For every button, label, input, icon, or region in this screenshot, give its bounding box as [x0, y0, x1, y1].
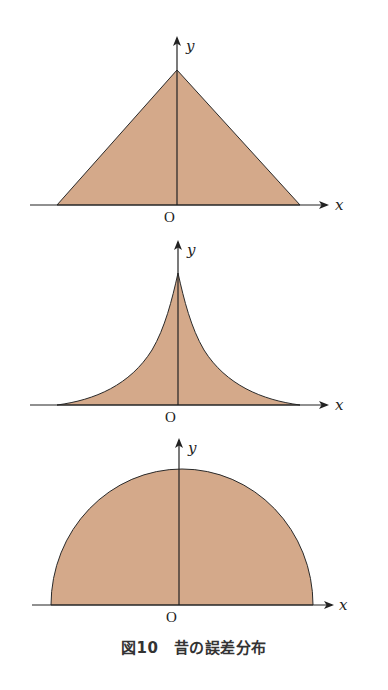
x-axis-label: x: [339, 596, 348, 614]
origin-label: O: [164, 209, 175, 225]
origin-label: O: [166, 609, 177, 625]
triangle-area: [57, 70, 300, 205]
y-axis-label: y: [186, 241, 196, 259]
x-axis-label: x: [335, 396, 344, 414]
semicircle-distribution-chart: x y O: [32, 439, 348, 625]
x-axis-label: x: [335, 196, 344, 214]
y-axis-label: y: [187, 439, 197, 457]
triangle-distribution-chart: x y O: [30, 37, 344, 225]
figure-canvas: x y O x y O x y O: [0, 0, 388, 690]
figure-caption: 図10 昔の誤差分布: [0, 636, 388, 657]
semicircle-area: [51, 469, 313, 605]
y-axis-label: y: [185, 37, 195, 55]
laplace-distribution-chart: x y O: [30, 241, 344, 425]
origin-label: O: [165, 409, 176, 425]
